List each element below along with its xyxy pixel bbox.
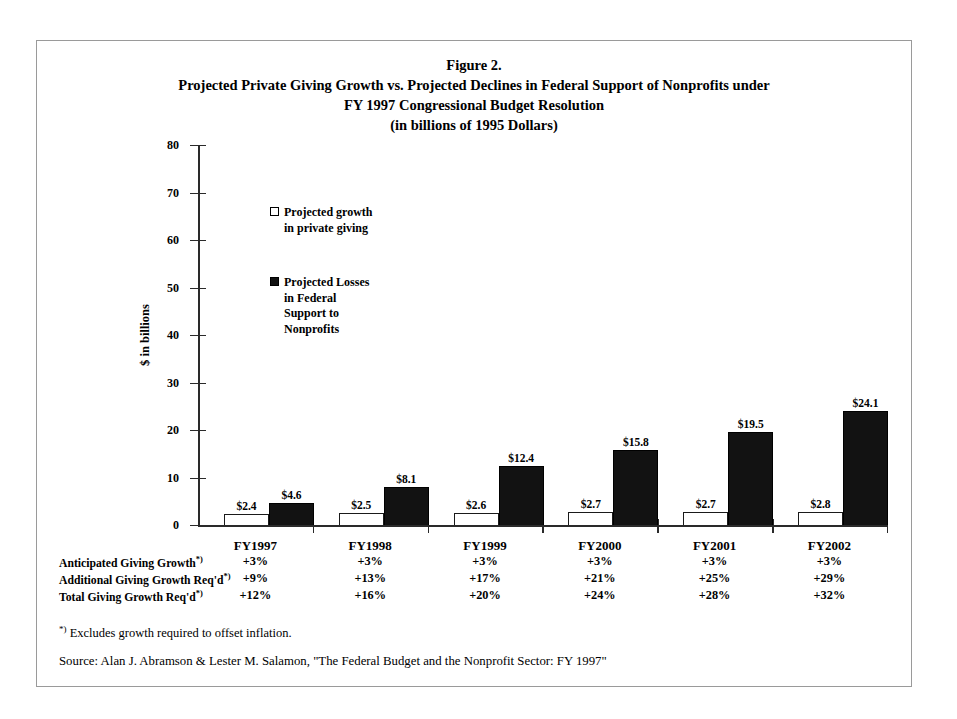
table-row: Total Giving Growth Req'd*)+12%+16%+20%+… bbox=[37, 588, 911, 605]
table-cell: +3% bbox=[587, 554, 612, 569]
open-square-icon bbox=[270, 207, 279, 216]
table-cell: +3% bbox=[702, 554, 727, 569]
table-cell: +25% bbox=[699, 571, 731, 586]
bar-value-label: $15.8 bbox=[623, 436, 649, 448]
legend-entry-1-line-0: Projected Losses bbox=[284, 275, 369, 291]
y-axis-tick: 10 bbox=[190, 478, 206, 479]
legend-entry-0-line-1: in private giving bbox=[284, 221, 373, 237]
table-cell: +13% bbox=[354, 571, 386, 586]
figure-title: Figure 2. Projected Private Giving Growt… bbox=[37, 55, 911, 135]
y-axis-tick: 30 bbox=[190, 383, 206, 384]
bar: $8.1 bbox=[384, 487, 429, 525]
category-label: FY2002 bbox=[808, 538, 851, 554]
footnote: *) Excludes growth required to offset in… bbox=[59, 624, 292, 641]
category-label: FY1999 bbox=[463, 538, 506, 554]
legend-entry-federal-losses: Projected Losses in Federal Support to N… bbox=[270, 275, 369, 337]
legend-entry-0-lines: Projected growth in private giving bbox=[284, 205, 373, 236]
bar: $12.4 bbox=[499, 466, 544, 525]
table-row-label: Anticipated Giving Growth*) bbox=[59, 554, 203, 570]
bar-value-label: $2.7 bbox=[581, 498, 601, 510]
y-axis-tick-label: 20 bbox=[167, 423, 179, 438]
table-cell: +24% bbox=[584, 588, 616, 603]
bar-value-label: $24.1 bbox=[853, 397, 879, 409]
giving-growth-table: Anticipated Giving Growth*)+3%+3%+3%+3%+… bbox=[37, 554, 911, 605]
bar: $24.1 bbox=[843, 411, 888, 525]
table-cell: +3% bbox=[357, 554, 382, 569]
category-label: FY1998 bbox=[349, 538, 392, 554]
y-axis-tick: 70 bbox=[190, 193, 206, 194]
category-label: FY2001 bbox=[693, 538, 736, 554]
y-axis-tick-label: 0 bbox=[173, 518, 179, 533]
bar-value-label: $2.7 bbox=[696, 498, 716, 510]
y-axis-tick-label: 50 bbox=[167, 280, 179, 295]
title-line-1: Figure 2. bbox=[37, 55, 911, 75]
table-cell: +17% bbox=[469, 571, 501, 586]
y-axis-tick: 50 bbox=[190, 288, 206, 289]
y-axis-title: $ in billions bbox=[138, 304, 153, 366]
y-axis-tick-label: 40 bbox=[167, 328, 179, 343]
table-cell: +3% bbox=[243, 554, 268, 569]
bar-value-label: $2.6 bbox=[466, 499, 486, 511]
table-cell: +21% bbox=[584, 571, 616, 586]
y-axis-tick-label: 60 bbox=[167, 233, 179, 248]
category-label: FY1997 bbox=[234, 538, 277, 554]
legend-entry-private-giving: Projected growth in private giving bbox=[270, 205, 373, 236]
y-axis-tick: 20 bbox=[190, 430, 206, 431]
table-cell: +29% bbox=[814, 571, 846, 586]
table-cell: +12% bbox=[240, 588, 272, 603]
table-cell: +3% bbox=[472, 554, 497, 569]
figure-frame: Figure 2. Projected Private Giving Growt… bbox=[36, 40, 912, 687]
bar-value-label: $12.4 bbox=[508, 452, 534, 464]
bar: $2.8 bbox=[798, 512, 843, 525]
bar: $2.6 bbox=[454, 513, 499, 525]
title-line-4: (in billions of 1995 Dollars) bbox=[37, 115, 911, 135]
chart-plot-area: $ in billions 01020304050607080 $2.4$4.6… bbox=[198, 145, 887, 525]
legend-entry-1-line-2: Support to bbox=[284, 306, 369, 322]
table-cell: +9% bbox=[243, 571, 268, 586]
table-row-footnote-marker: *) bbox=[196, 554, 203, 564]
table-row-footnote-marker: *) bbox=[223, 571, 230, 581]
bar: $2.5 bbox=[339, 513, 384, 525]
table-cell: +16% bbox=[354, 588, 386, 603]
table-cell: +3% bbox=[817, 554, 842, 569]
bar: $15.8 bbox=[613, 450, 658, 525]
source-note: Source: Alan J. Abramson & Lester M. Sal… bbox=[59, 654, 607, 669]
table-cell: +20% bbox=[469, 588, 501, 603]
y-axis-tick-label: 30 bbox=[167, 375, 179, 390]
y-axis-tick: 60 bbox=[190, 240, 206, 241]
filled-square-icon bbox=[270, 277, 279, 286]
legend-entry-1-line-3: Nonprofits bbox=[284, 322, 369, 338]
y-axis-tick: 80 bbox=[190, 145, 206, 146]
y-axis-tick: 40 bbox=[190, 335, 206, 336]
bar-value-label: $2.8 bbox=[810, 498, 830, 510]
legend-entry-1-line-1: in Federal bbox=[284, 291, 369, 307]
table-row-label: Additional Giving Growth Req'd*) bbox=[59, 571, 231, 587]
bar: $2.7 bbox=[683, 512, 728, 525]
bar-value-label: $4.6 bbox=[281, 489, 301, 501]
footnote-text: Excludes growth required to offset infla… bbox=[70, 626, 292, 640]
title-line-2: Projected Private Giving Growth vs. Proj… bbox=[37, 75, 911, 95]
table-cell: +28% bbox=[699, 588, 731, 603]
footnote-marker: *) bbox=[59, 624, 67, 634]
y-axis-tick-label: 70 bbox=[167, 185, 179, 200]
bar-value-label: $2.5 bbox=[351, 499, 371, 511]
bar-value-label: $2.4 bbox=[236, 500, 256, 512]
bar: $2.7 bbox=[568, 512, 613, 525]
bar: $4.6 bbox=[269, 503, 314, 525]
table-cell: +32% bbox=[814, 588, 846, 603]
table-row-footnote-marker: *) bbox=[196, 588, 203, 598]
title-line-3: FY 1997 Congressional Budget Resolution bbox=[37, 95, 911, 115]
legend-entry-0-line-0: Projected growth bbox=[284, 205, 373, 221]
bar: $2.4 bbox=[224, 514, 269, 525]
table-row: Anticipated Giving Growth*)+3%+3%+3%+3%+… bbox=[37, 554, 911, 571]
category-label: FY2000 bbox=[578, 538, 621, 554]
table-row: Additional Giving Growth Req'd*)+9%+13%+… bbox=[37, 571, 911, 588]
legend-entry-1-lines: Projected Losses in Federal Support to N… bbox=[284, 275, 369, 337]
bar-value-label: $19.5 bbox=[738, 418, 764, 430]
table-row-label: Total Giving Growth Req'd*) bbox=[59, 588, 203, 604]
y-axis-tick-label: 10 bbox=[167, 470, 179, 485]
y-axis-tick-label: 80 bbox=[167, 138, 179, 153]
y-axis-tick: 0 bbox=[190, 525, 206, 526]
bar-value-label: $8.1 bbox=[396, 473, 416, 485]
bar: $19.5 bbox=[728, 432, 773, 525]
